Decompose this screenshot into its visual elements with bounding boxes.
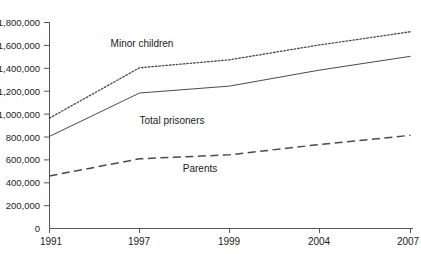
series-line-total-prisoners bbox=[50, 56, 411, 136]
y-tick-label: 1,400,000 bbox=[0, 63, 40, 74]
series-line-minor-children bbox=[50, 32, 411, 118]
series-label-minor-children: Minor children bbox=[111, 38, 174, 49]
y-tick-label: 1,800,000 bbox=[0, 17, 40, 28]
y-tick-label: 1,600,000 bbox=[0, 40, 40, 51]
series-group bbox=[50, 32, 411, 176]
y-tick-label: 800,000 bbox=[6, 132, 40, 143]
x-tick-label: 1997 bbox=[128, 236, 151, 247]
x-tick-label: 1991 bbox=[40, 236, 63, 247]
series-annotations: Minor children Total prisoners Parents bbox=[111, 38, 218, 174]
series-line-parents bbox=[50, 135, 411, 176]
chart-svg: 1,800,000 1,600,000 1,400,000 1,200,000 … bbox=[0, 0, 421, 254]
x-tick-label: 1999 bbox=[218, 236, 241, 247]
y-tick-label: 200,000 bbox=[6, 200, 40, 211]
y-tick-label: 600,000 bbox=[6, 154, 40, 165]
y-tick-label: 1,200,000 bbox=[0, 86, 40, 97]
y-tick-label: 0 bbox=[35, 223, 40, 234]
y-tick-label: 400,000 bbox=[6, 177, 40, 188]
x-tick-label: 2004 bbox=[308, 236, 331, 247]
series-label-total-prisoners: Total prisoners bbox=[139, 115, 204, 126]
y-tick-labels: 1,800,000 1,600,000 1,400,000 1,200,000 … bbox=[0, 17, 40, 234]
y-tick-marks bbox=[44, 23, 50, 206]
x-tick-labels: 1991 1997 1999 2004 2007 bbox=[40, 236, 420, 247]
x-tick-label: 2007 bbox=[397, 236, 420, 247]
series-label-parents: Parents bbox=[183, 163, 217, 174]
line-chart: 1,800,000 1,600,000 1,400,000 1,200,000 … bbox=[0, 0, 421, 254]
y-tick-label: 1,000,000 bbox=[0, 109, 40, 120]
x-tick-marks bbox=[50, 229, 411, 234]
